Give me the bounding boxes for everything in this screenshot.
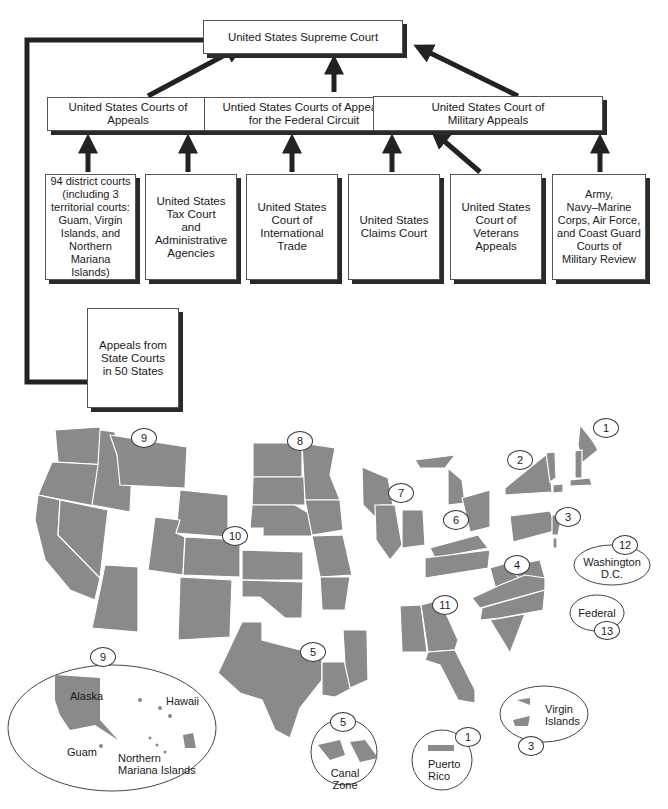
canal-zone-label: Canal Zone (318, 767, 372, 791)
fl (425, 650, 475, 703)
ks (242, 550, 303, 580)
virgin-islands-label: Virgin Islands (545, 703, 580, 727)
ct (553, 484, 563, 493)
circuit-12-badge: 12 (612, 535, 638, 555)
circuit-8-badge: 8 (287, 431, 313, 451)
ar (320, 577, 350, 610)
guam-label: Guam (67, 746, 97, 758)
alaska-label: Alaska (70, 690, 103, 702)
in (402, 510, 425, 548)
sc (490, 614, 525, 653)
circuit-7-badge: 7 (388, 483, 414, 503)
hawaii-label: Hawaii (166, 695, 199, 707)
ok (242, 580, 303, 618)
il (375, 505, 402, 560)
circuit-6-badge: 6 (443, 510, 469, 530)
sd (252, 477, 305, 505)
nmi-label: Northern Mariana Islands (118, 752, 196, 776)
circuit-13-badge: 13 (594, 621, 620, 640)
pa (510, 511, 558, 542)
circuit-1-badge: 1 (593, 418, 619, 438)
de (553, 538, 557, 548)
circuit-5-badge: 5 (300, 642, 326, 662)
pacific-circuit-9-badge: 9 (90, 647, 116, 667)
circuit-2-badge: 2 (507, 450, 533, 470)
nm (178, 577, 232, 640)
circuit-10-badge: 10 (222, 526, 248, 546)
ia (305, 500, 343, 535)
wy (176, 490, 228, 537)
tx (218, 622, 322, 738)
federal-label: Federal (574, 607, 620, 619)
mi-up (415, 455, 455, 468)
ma (570, 478, 592, 486)
circuit-3-badge: 3 (555, 507, 581, 527)
puerto-rico-label: Puerto Rico (428, 758, 460, 782)
canal-circuit-5-badge: 5 (330, 712, 356, 732)
dc-label: Washington D.C. (582, 556, 642, 580)
pr-circuit-1-badge: 1 (455, 727, 481, 747)
nh (575, 450, 582, 478)
circuit-9-badge: 9 (131, 428, 157, 448)
circuit-4-badge: 4 (504, 555, 530, 575)
circuit-map (0, 0, 668, 809)
mn (302, 443, 340, 500)
ne (250, 505, 312, 536)
vi-circuit-3-badge: 3 (518, 736, 544, 756)
circuit-11-badge: 11 (432, 595, 458, 615)
mo (312, 535, 352, 577)
